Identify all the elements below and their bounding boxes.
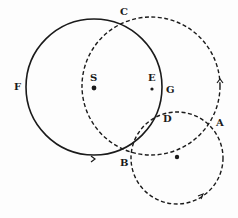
point-label-f: F — [14, 81, 21, 92]
point-label-c: C — [120, 6, 128, 17]
point-label-s: S — [90, 72, 97, 83]
point-label-d: D — [163, 113, 172, 124]
dashed-circle-E — [82, 17, 220, 155]
point-label-b: B — [120, 157, 128, 168]
point-label-g: G — [166, 84, 175, 95]
center-dot — [175, 155, 179, 159]
point-label-e: E — [148, 72, 156, 83]
diagram-canvas: CSEGFDAB — [0, 0, 238, 218]
point-label-a: A — [215, 117, 224, 128]
arrow-icon — [91, 156, 95, 162]
center-dot — [150, 87, 153, 90]
geometry-figure: CSEGFDAB — [0, 0, 238, 218]
center-dot — [92, 86, 97, 91]
